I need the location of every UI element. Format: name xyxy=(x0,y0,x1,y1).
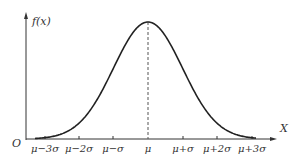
tick-label-mu-plus-sigma: μ+σ xyxy=(172,143,195,154)
y-axis-arrow-icon xyxy=(24,12,28,19)
y-axis-label: f(x) xyxy=(31,15,51,28)
origin-label: O xyxy=(12,137,21,150)
chart-canvas: f(x) X O μ−3σ μ−2σ μ−σ μ μ+σ μ+2σ μ+3σ xyxy=(0,0,299,162)
tick-label-mu-plus-2sigma: μ+2σ xyxy=(203,143,232,154)
density-curve xyxy=(35,22,256,138)
x-axis-label: X xyxy=(279,122,289,135)
tick-label-mu: μ xyxy=(145,143,152,154)
normal-distribution-figure: f(x) X O μ−3σ μ−2σ μ−σ μ μ+σ μ+2σ μ+3σ xyxy=(0,0,299,162)
tick-label-mu-minus-sigma: μ−σ xyxy=(102,143,125,154)
tick-label-mu-plus-3sigma: μ+3σ xyxy=(238,143,267,154)
x-axis-arrow-icon xyxy=(270,137,277,141)
tick-label-mu-minus-3sigma: μ−3σ xyxy=(31,143,60,154)
tick-label-mu-minus-2sigma: μ−2σ xyxy=(65,143,94,154)
